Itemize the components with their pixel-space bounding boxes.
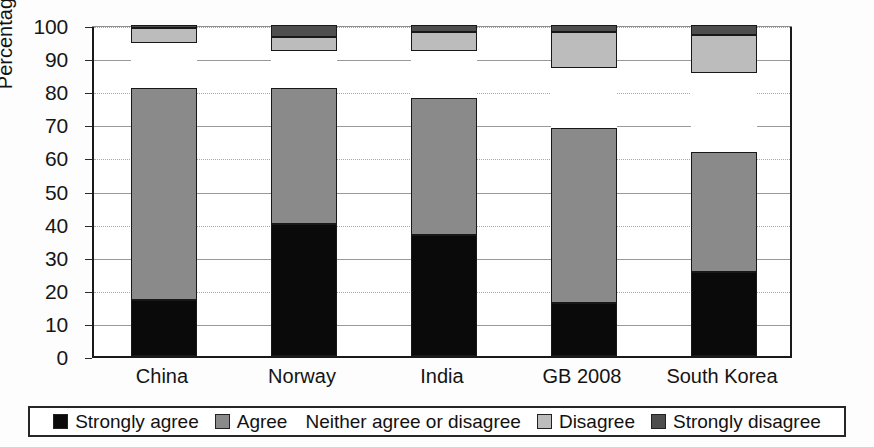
legend-item-label: Neither agree or disagree: [305, 412, 520, 431]
legend-item-label: Disagree: [559, 412, 635, 431]
legend-item[interactable]: Neither agree or disagree: [295, 412, 528, 431]
bar-segment[interactable]: [271, 224, 337, 356]
legend-item-label: Agree: [237, 412, 288, 431]
legend-swatch-icon: [215, 414, 230, 429]
bar-segment[interactable]: [551, 25, 617, 32]
y-axis-tick-mark: [85, 193, 92, 194]
bar-segment[interactable]: [271, 25, 337, 37]
y-axis-tick-label: 100: [12, 16, 68, 37]
y-axis-tick-label: 20: [12, 281, 68, 302]
chart-figure: Percentage 0102030405060708090100 ChinaN…: [0, 0, 874, 447]
y-axis-tick-mark: [85, 226, 92, 227]
y-axis-tick-mark: [85, 126, 92, 127]
bar-segment[interactable]: [271, 88, 337, 224]
bar-segment[interactable]: [691, 152, 757, 271]
y-axis-tick-label: 0: [12, 347, 68, 368]
bar-segment[interactable]: [691, 25, 757, 35]
bar-segment[interactable]: [411, 235, 477, 356]
bar-group: [94, 27, 790, 356]
bar-stack[interactable]: [271, 27, 337, 356]
y-axis-tick-mark: [85, 27, 92, 28]
legend-swatch-icon: [537, 414, 552, 429]
bar-segment[interactable]: [551, 68, 617, 128]
y-axis-tick-mark: [85, 325, 92, 326]
legend-item-label: Strongly disagree: [673, 412, 821, 431]
y-axis-tick-mark: [85, 292, 92, 293]
legend-item[interactable]: Strongly disagree: [643, 412, 829, 431]
legend-swatch-icon: [53, 414, 68, 429]
plot-area: [92, 27, 792, 358]
bar-segment[interactable]: [131, 43, 197, 88]
legend-swatch-icon: [651, 414, 666, 429]
bar-stack[interactable]: [131, 27, 197, 356]
bar-segment[interactable]: [271, 51, 337, 87]
bar-segment[interactable]: [131, 28, 197, 43]
bar-stack[interactable]: [411, 27, 477, 356]
y-axis-tick-mark: [85, 60, 92, 61]
legend-item-label: Strongly agree: [75, 412, 199, 431]
y-axis-tick-label: 90: [12, 49, 68, 70]
y-axis-tick-mark: [85, 159, 92, 160]
bar-segment[interactable]: [131, 300, 197, 356]
bar-stack[interactable]: [691, 27, 757, 356]
y-axis-tick-label: 80: [12, 82, 68, 103]
x-axis-tick-label: South Korea: [622, 365, 822, 388]
y-axis-tick-label: 50: [12, 182, 68, 203]
y-axis-tick-mark: [85, 358, 92, 359]
legend-item[interactable]: Disagree: [529, 412, 643, 431]
y-axis-tick-mark: [85, 259, 92, 260]
bar-segment[interactable]: [271, 37, 337, 52]
y-axis-tick-mark: [85, 93, 92, 94]
legend-item[interactable]: Strongly agree: [45, 412, 207, 431]
bar-stack[interactable]: [551, 27, 617, 356]
chart-legend: Strongly agreeAgreeNeither agree or disa…: [28, 406, 846, 437]
bar-segment[interactable]: [411, 98, 477, 235]
y-axis-tick-label: 30: [12, 248, 68, 269]
y-axis-tick-label: 60: [12, 148, 68, 169]
bar-segment[interactable]: [551, 128, 617, 303]
bar-segment[interactable]: [551, 303, 617, 356]
y-axis-tick-label: 10: [12, 314, 68, 335]
y-axis-tick-label: 40: [12, 215, 68, 236]
bar-segment[interactable]: [551, 32, 617, 68]
bar-segment[interactable]: [411, 32, 477, 52]
bar-segment[interactable]: [691, 35, 757, 73]
bar-segment[interactable]: [411, 52, 477, 98]
bar-segment[interactable]: [131, 88, 197, 300]
bar-segment[interactable]: [691, 73, 757, 152]
legend-item[interactable]: Agree: [207, 412, 296, 431]
bar-segment[interactable]: [691, 272, 757, 356]
bar-segment[interactable]: [411, 25, 477, 32]
y-axis-tick-label: 70: [12, 115, 68, 136]
